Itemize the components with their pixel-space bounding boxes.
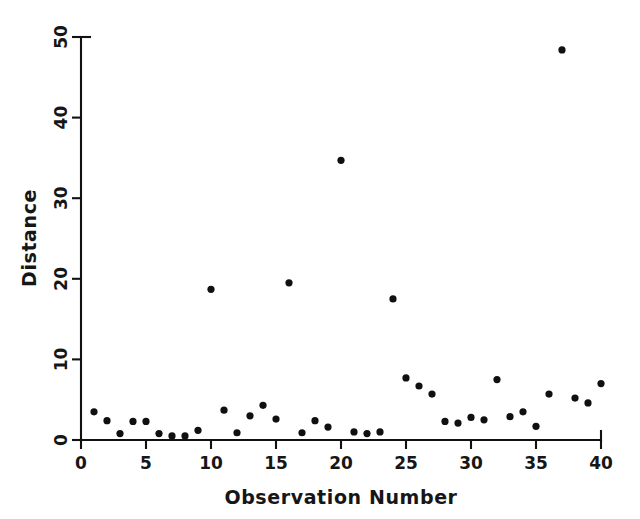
data-point [103,417,110,424]
x-tick-label: 0 [75,453,87,473]
y-tick-label: 20 [51,267,71,291]
data-point [545,390,552,397]
x-tick-label: 10 [199,453,223,473]
data-point [350,428,357,435]
data-point [584,399,591,406]
plot-canvas: 0510152025303540 01020304050 Observation… [0,0,640,519]
data-point [571,394,578,401]
data-point [376,428,383,435]
data-point [116,430,123,437]
y-axis-title: Distance [18,189,40,287]
data-point [454,419,461,426]
data-point [389,295,396,302]
x-tick-label: 15 [264,453,288,473]
data-point [233,429,240,436]
data-point [402,374,409,381]
data-point [168,432,175,439]
x-tick-label: 35 [524,453,548,473]
x-tick-label: 20 [329,453,353,473]
y-tick-label: 40 [51,106,71,130]
y-tick-label: 10 [51,347,71,371]
x-tick-label: 30 [459,453,483,473]
data-point [558,46,565,53]
data-point [428,390,435,397]
data-point [129,418,136,425]
data-point [597,380,604,387]
data-point [532,423,539,430]
data-point [220,407,227,414]
x-tick-label: 40 [589,453,613,473]
data-point [142,418,149,425]
x-tick-label: 25 [394,453,418,473]
x-axis-title: Observation Number [224,486,457,508]
data-point [311,417,318,424]
data-point [207,286,214,293]
data-point [181,432,188,439]
scatter-plot-figure: 0510152025303540 01020304050 Observation… [0,0,640,519]
data-point [90,408,97,415]
x-tick-label: 5 [140,453,152,473]
data-point [493,376,500,383]
data-point [155,430,162,437]
data-point [415,382,422,389]
y-tick-label: 0 [51,434,71,446]
data-point [441,418,448,425]
y-tick-label: 50 [51,25,71,49]
data-point [298,429,305,436]
data-point [467,414,474,421]
plot-background [0,0,640,519]
data-point [272,415,279,422]
data-point [285,279,292,286]
data-point [194,427,201,434]
data-point [506,413,513,420]
data-point [337,157,344,164]
data-point [363,430,370,437]
y-tick-label: 30 [51,186,71,210]
data-point [246,412,253,419]
data-point [480,416,487,423]
data-point [259,402,266,409]
data-point [324,424,331,431]
data-point [519,408,526,415]
